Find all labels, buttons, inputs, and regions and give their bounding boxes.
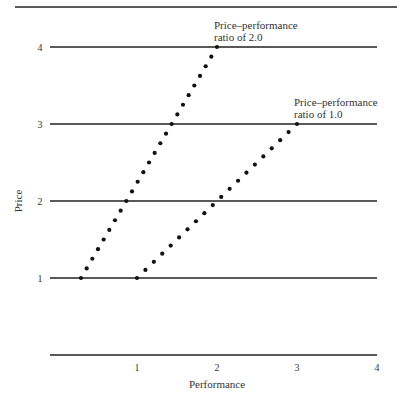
x-tick-label: 4	[375, 362, 380, 373]
data-point	[211, 203, 215, 207]
data-point	[286, 130, 290, 134]
x-tick-label: 3	[295, 362, 300, 373]
data-point	[278, 138, 282, 142]
data-point	[85, 266, 89, 270]
data-point	[202, 211, 206, 215]
y-tick-label: 1	[38, 273, 43, 284]
data-point	[102, 237, 106, 241]
data-point	[147, 160, 151, 164]
x-axis-label: Performance	[189, 378, 245, 390]
data-point	[236, 179, 240, 183]
data-point	[244, 171, 248, 175]
data-point	[153, 151, 157, 155]
data-point	[135, 276, 139, 280]
data-point	[187, 93, 191, 97]
data-point	[253, 162, 257, 166]
data-point	[164, 132, 168, 136]
data-point	[143, 268, 147, 272]
data-point	[295, 122, 299, 126]
data-point	[141, 170, 145, 174]
data-point	[209, 55, 213, 59]
y-tick-label: 3	[38, 119, 43, 130]
data-point	[160, 252, 164, 256]
data-point	[204, 64, 208, 68]
data-point	[175, 112, 179, 116]
y-tick-label: 2	[38, 196, 43, 207]
gridlines	[50, 47, 377, 355]
data-point	[119, 209, 123, 213]
annotations: Price–performanceratio of 2.0Price–perfo…	[214, 19, 378, 120]
data-point	[185, 227, 189, 231]
x-tick-labels: 1234	[135, 362, 380, 373]
data-point	[261, 154, 265, 158]
y-tick-labels: 1234	[38, 42, 43, 284]
data-point	[181, 103, 185, 107]
annotation-label: Price–performanceratio of 1.0	[294, 96, 378, 120]
data-point	[152, 260, 156, 264]
data-point	[124, 199, 128, 203]
dotted-series	[79, 45, 299, 280]
data-point	[170, 122, 174, 126]
data-point	[177, 235, 181, 239]
data-point	[113, 218, 117, 222]
data-point	[270, 146, 274, 150]
data-point	[96, 247, 100, 251]
data-point	[136, 180, 140, 184]
data-point	[219, 195, 223, 199]
annotation-label: Price–performanceratio of 2.0	[214, 19, 298, 43]
data-point	[228, 187, 232, 191]
y-tick-label: 4	[38, 42, 43, 53]
data-point	[194, 219, 198, 223]
x-tick-label: 1	[135, 362, 140, 373]
data-point	[158, 141, 162, 145]
series-dots	[79, 45, 219, 280]
y-axis-label: Price	[12, 190, 24, 213]
data-point	[130, 189, 134, 193]
data-point	[215, 45, 219, 49]
data-point	[79, 276, 83, 280]
x-tick-label: 2	[215, 362, 220, 373]
price-performance-chart: 1234 1234 Price–performanceratio of 2.0P…	[0, 0, 397, 403]
data-point	[198, 74, 202, 78]
data-point	[192, 83, 196, 87]
data-point	[169, 243, 173, 247]
data-point	[107, 228, 111, 232]
data-point	[90, 257, 94, 261]
